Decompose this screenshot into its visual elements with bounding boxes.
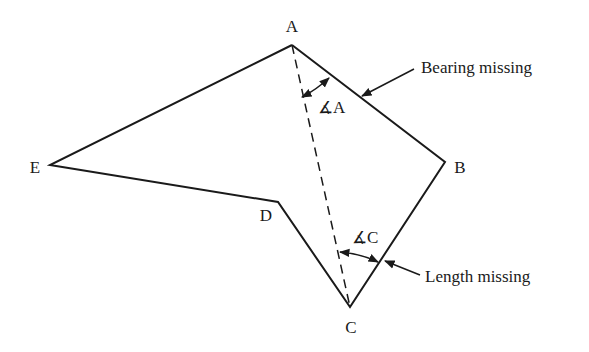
diagram-canvas: A B C D E ∡A ∡C Bearing missing Length m… bbox=[0, 0, 589, 352]
length-pointer-arrow bbox=[385, 261, 420, 275]
angle-a-arrow bbox=[302, 78, 329, 97]
angle-label-a: ∡A bbox=[318, 98, 346, 117]
traverse-diagram: A B C D E ∡A ∡C Bearing missing Length m… bbox=[0, 0, 589, 352]
angle-c-arrow bbox=[340, 252, 378, 262]
vertex-label-b: B bbox=[454, 158, 465, 177]
vertex-label-a: A bbox=[286, 17, 299, 36]
angle-label-c: ∡C bbox=[352, 228, 378, 247]
bearing-pointer-arrow bbox=[362, 69, 414, 96]
vertex-label-c: C bbox=[345, 318, 356, 337]
vertex-label-e: E bbox=[30, 158, 40, 177]
vertex-label-d: D bbox=[260, 206, 272, 225]
bearing-missing-label: Bearing missing bbox=[421, 58, 532, 77]
length-missing-label: Length missing bbox=[425, 267, 531, 286]
